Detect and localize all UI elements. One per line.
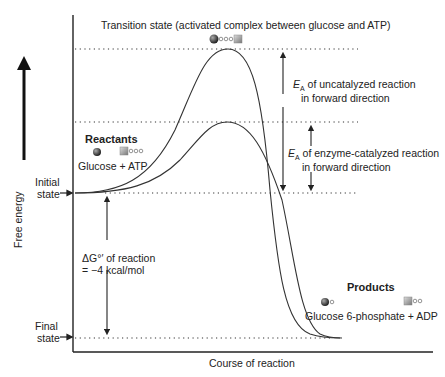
products-label: Glucose 6-phosphate + ADP — [305, 310, 438, 322]
initial-state-label: Initial state — [35, 176, 60, 200]
delta-g-line2: = −4 kcal/mol — [82, 264, 155, 276]
free-energy-arrow — [17, 56, 31, 160]
reactants-title: Reactants — [85, 133, 138, 145]
final-state-line2: state — [35, 332, 60, 344]
ea-catalyzed-text: of enzyme-catalyzed reaction — [300, 147, 439, 159]
final-state-label: Final state — [35, 320, 60, 344]
ea-uncatalyzed-text: of uncatalyzed reaction — [305, 78, 416, 90]
x-axis-label: Course of reaction — [209, 357, 295, 369]
delta-g-line1: ΔG°′ of reaction — [82, 252, 155, 264]
state-arrows — [60, 193, 70, 337]
products-title: Products — [347, 281, 395, 293]
glucose-icon — [93, 148, 101, 156]
ea-symbol: E — [288, 147, 295, 159]
y-axis-label: Free energy — [12, 191, 24, 248]
ea-catalyzed-label-2: in forward direction — [302, 161, 391, 173]
ea-uncatalyzed-label-2: in forward direction — [301, 92, 390, 104]
ea-symbol: E — [293, 78, 300, 90]
activated-complex-icon — [210, 35, 243, 44]
adp-icon — [404, 297, 422, 305]
initial-state-line1: Initial — [35, 176, 60, 188]
transition-state-label: Transition state (activated complex betw… — [101, 19, 390, 31]
initial-state-line2: state — [35, 188, 60, 200]
reactants-label: Glucose + ATP — [78, 160, 148, 172]
glucose-6-phosphate-icon — [321, 298, 334, 306]
final-state-line1: Final — [35, 320, 60, 332]
delta-g-label: ΔG°′ of reaction = −4 kcal/mol — [82, 252, 155, 276]
atp-icon — [120, 147, 143, 155]
